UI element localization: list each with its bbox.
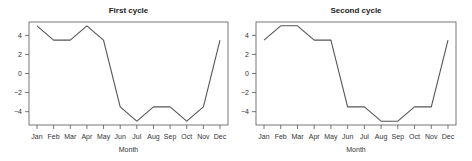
x-tick-label: Sep — [392, 133, 405, 141]
x-tick-label: Mar — [291, 133, 304, 140]
y-tick-label: 0 — [18, 70, 22, 77]
second-cycle-panel: Second cycle420−2−4JanFebMarAprMayJunJul… — [241, 6, 456, 153]
y-tick-label: 0 — [245, 70, 249, 77]
x-tick-label: Jan — [31, 133, 42, 140]
y-tick-label: 4 — [245, 32, 249, 39]
x-tick-label: Oct — [181, 133, 192, 140]
y-tick-label: 2 — [245, 51, 249, 58]
x-tick-label: May — [97, 133, 111, 141]
y-tick-label: −4 — [14, 108, 22, 115]
y-tick-label: 4 — [18, 32, 22, 39]
x-tick-label: Dec — [442, 133, 455, 140]
x-tick-label: Jul — [360, 133, 369, 140]
chart-canvas: First cycle420−2−4JanFebMarAprMayJunJulA… — [0, 0, 472, 161]
x-tick-label: Dec — [214, 133, 227, 140]
x-tick-label: Jan — [258, 133, 269, 140]
chart-title: First cycle — [109, 6, 149, 15]
x-tick-label: Mar — [64, 133, 77, 140]
x-tick-label: Oct — [409, 133, 420, 140]
first-cycle-panel: First cycle420−2−4JanFebMarAprMayJunJulA… — [14, 6, 228, 153]
y-tick-label: −2 — [14, 89, 22, 96]
x-tick-label: Feb — [48, 133, 60, 140]
x-tick-label: Sep — [164, 133, 177, 141]
data-line — [37, 26, 220, 121]
x-tick-label: Aug — [375, 133, 388, 141]
plot-frame — [29, 22, 228, 125]
y-tick-label: −2 — [241, 89, 249, 96]
chart-title: Second cycle — [330, 6, 382, 15]
x-tick-label: Apr — [81, 133, 93, 141]
x-tick-label: Feb — [275, 133, 287, 140]
x-tick-label: Jun — [115, 133, 126, 140]
x-axis-label: Month — [119, 146, 139, 153]
x-tick-label: Jun — [342, 133, 353, 140]
y-tick-label: −4 — [241, 108, 249, 115]
y-tick-label: 2 — [18, 51, 22, 58]
x-tick-label: Nov — [197, 133, 210, 140]
x-axis-label: Month — [346, 146, 366, 153]
x-tick-label: Aug — [147, 133, 160, 141]
x-tick-label: Jul — [132, 133, 141, 140]
x-tick-label: May — [324, 133, 338, 141]
plot-frame — [256, 22, 456, 125]
x-tick-label: Apr — [309, 133, 321, 141]
data-line — [264, 26, 448, 121]
x-tick-label: Nov — [425, 133, 438, 140]
